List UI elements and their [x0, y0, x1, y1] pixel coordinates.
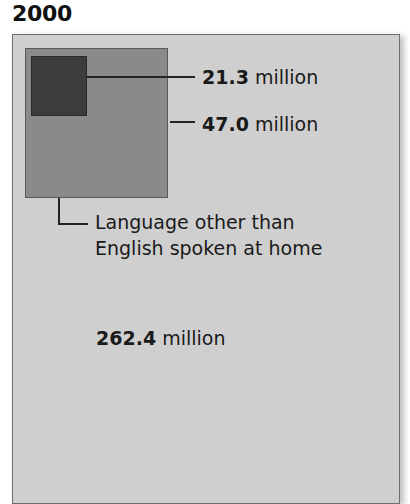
total-value-label: 262.4 million: [96, 326, 225, 350]
total-value: 262.4: [96, 327, 156, 349]
category-label-line2: English spoken at home: [95, 236, 322, 260]
inner-value: 21.3: [202, 66, 249, 88]
category-label-line1: Language other than: [95, 210, 295, 234]
leader-line-category-horizontal: [58, 223, 88, 225]
inner-value-label: 21.3 million: [202, 65, 318, 89]
chart-title: 2000: [12, 0, 72, 28]
middle-value: 47.0: [202, 113, 249, 135]
total-unit: million: [156, 327, 225, 349]
middle-unit: million: [249, 113, 318, 135]
inner-subset-square: [31, 56, 87, 116]
leader-line-category-vertical: [58, 198, 60, 225]
leader-line-middle: [170, 121, 195, 123]
inner-unit: million: [249, 66, 318, 88]
leader-line-inner: [87, 76, 195, 78]
middle-value-label: 47.0 million: [202, 112, 318, 136]
